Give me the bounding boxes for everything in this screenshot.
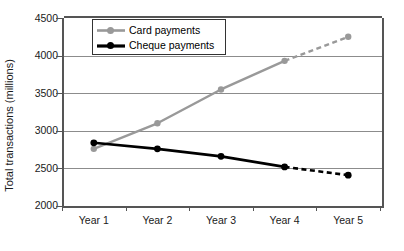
y-tick-label-3000: 3000 <box>18 125 58 135</box>
gridline-4500 <box>64 16 382 18</box>
x-tick-mark-4 <box>316 206 317 211</box>
y-tick-label-2000: 2000 <box>18 200 58 210</box>
chart-legend: Card payments Cheque payments <box>92 19 226 55</box>
y-tick-label-4000: 4000 <box>18 50 58 60</box>
legend-item-card-payments: Card payments <box>97 22 222 37</box>
x-tick-mark-5 <box>380 206 381 211</box>
x-tick-label-year-1: Year 1 <box>62 214 126 226</box>
x-tick-label-year-4: Year 4 <box>253 214 317 226</box>
y-tick-label-2500: 2500 <box>18 163 58 173</box>
legend-marker-card-icon <box>97 24 125 36</box>
x-tick-mark-1 <box>126 206 127 211</box>
gridline-4000 <box>64 56 382 57</box>
x-tick-mark-2 <box>189 206 190 211</box>
x-tick-label-year-2: Year 2 <box>125 214 189 226</box>
gridline-3500 <box>64 93 382 94</box>
y-tick-label-3500: 3500 <box>18 88 58 98</box>
legend-marker-cheque-icon <box>97 39 125 51</box>
legend-label-cheque-payments: Cheque payments <box>125 39 214 51</box>
y-tick-label-4500: 4500 <box>18 13 58 23</box>
x-tick-mark-3 <box>253 206 254 211</box>
x-tick-label-year-3: Year 3 <box>189 214 253 226</box>
legend-label-card-payments: Card payments <box>125 24 200 36</box>
legend-item-cheque-payments: Cheque payments <box>97 37 222 52</box>
x-tick-mark-0 <box>62 206 63 211</box>
x-tick-label-year-5: Year 5 <box>316 214 380 226</box>
line-chart: Total transactions (millions) 4500 4000 … <box>0 0 404 251</box>
gridline-3000 <box>64 131 382 132</box>
y-axis-title: Total transactions (millions) <box>0 0 18 251</box>
gridline-2500 <box>64 168 382 169</box>
